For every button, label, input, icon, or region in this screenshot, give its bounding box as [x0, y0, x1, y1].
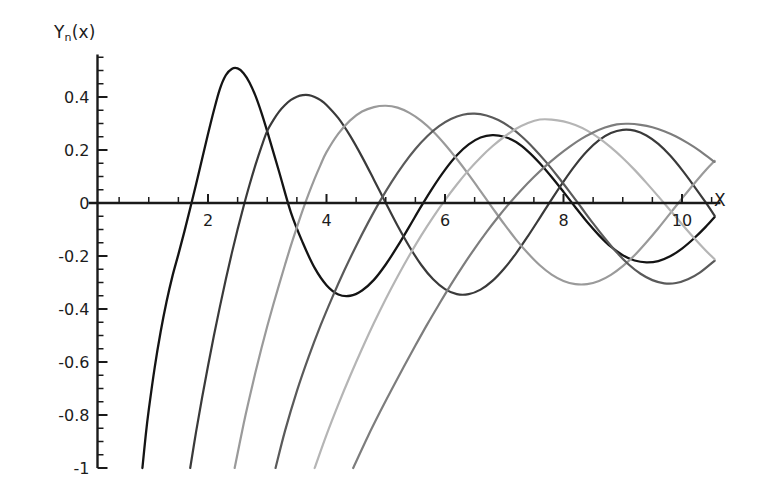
y-axis-title: Yn(x): [54, 22, 96, 42]
y-tick-label: 0.2: [0, 141, 90, 160]
x-tick-label: 6: [440, 211, 450, 230]
curve-y4: [315, 119, 715, 468]
y-tick-label: 0: [0, 194, 90, 213]
x-tick-label: 4: [321, 211, 331, 230]
y-tick-label: 0.4: [0, 88, 90, 107]
y-axis-title-argument: (x): [72, 22, 96, 42]
y-tick-label: -0.6: [0, 353, 90, 372]
x-tick-label: 8: [558, 211, 568, 230]
plot-area: [0, 0, 763, 501]
curve-y2: [235, 106, 715, 468]
curves-group: [142, 68, 714, 468]
y-tick-label: -0.4: [0, 300, 90, 319]
y-tick-label: -0.2: [0, 247, 90, 266]
y-tick-label: -1: [0, 459, 90, 478]
y-tick-label: -0.8: [0, 406, 90, 425]
x-axis-title: X: [714, 190, 726, 210]
x-tick-label: 2: [203, 211, 213, 230]
curve-y5: [353, 124, 714, 468]
x-tick-label: 10: [672, 211, 692, 230]
y-axis-title-base: Y: [54, 22, 65, 42]
y-axis-title-subscript: n: [65, 31, 72, 44]
bessel-function-chart: Yn(x) X 2468100.40.20-0.2-0.4-0.6-0.8-1: [0, 0, 763, 501]
curve-y3: [276, 114, 715, 468]
